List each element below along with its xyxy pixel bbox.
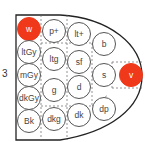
tone-circle-lt-plus: lt+ [67, 22, 91, 46]
tone-circle-w: w [17, 17, 41, 41]
tone-circle-s: s [92, 63, 116, 87]
tone-circle-Bk: Bk [17, 109, 41, 133]
tone-circle-p-plus: p+ [42, 19, 66, 43]
tone-circle-sf: sf [67, 50, 91, 74]
tone-circle-g: g [42, 78, 66, 102]
tone-circle-v: v [119, 63, 143, 87]
tone-circle-dp: dp [92, 97, 116, 121]
tone-circle-ltGy: ltGy [17, 40, 41, 64]
tone-circle-ltg: ltg [42, 47, 66, 71]
tone-circle-dkg: dkg [42, 107, 66, 131]
tone-circle-mGy: mGy [17, 63, 41, 87]
side-label: 3 [2, 68, 8, 79]
tone-circle-b: b [92, 32, 116, 56]
tone-circle-dk: dk [67, 103, 91, 127]
tone-circle-d: d [67, 75, 91, 99]
tone-circle-dkGy: dkGy [17, 86, 41, 110]
